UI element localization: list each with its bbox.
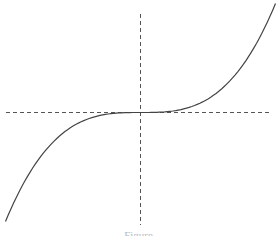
- cubic-plot: [0, 0, 277, 236]
- figure-caption: Figure: [0, 229, 277, 236]
